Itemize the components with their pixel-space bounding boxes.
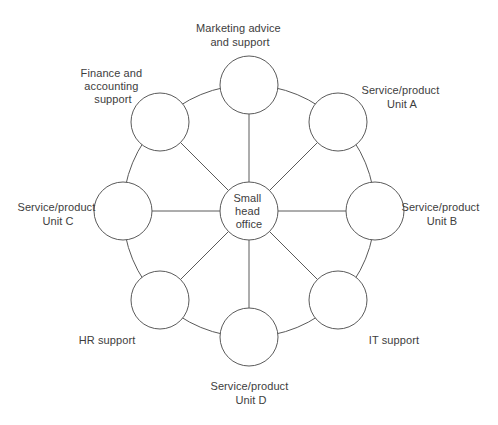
label-it-support: IT support — [369, 334, 419, 346]
label-finance-and-accounting-support: Finance and accounting support — [81, 67, 146, 105]
label-line: office — [236, 218, 263, 230]
label-line: Service/product — [17, 201, 95, 213]
label-line: HR support — [79, 334, 136, 346]
label-hr-support: HR support — [79, 334, 136, 346]
label-line: and support — [210, 36, 269, 48]
node-circle-service-product-unit-a — [309, 93, 367, 151]
label-line: Unit C — [42, 215, 73, 227]
label-line: Small — [233, 192, 261, 204]
label-line: Service/product — [361, 84, 439, 96]
node-circle-service-product-unit-b — [346, 182, 404, 240]
label-line: IT support — [369, 334, 419, 346]
label-line: head — [235, 205, 260, 217]
node-circle-finance-and-accounting-support — [131, 93, 189, 151]
label-line: Service/product — [210, 380, 288, 392]
label-line: Unit A — [387, 98, 418, 110]
label-line: Service/product — [401, 201, 479, 213]
node-circle-service-product-unit-d — [220, 308, 278, 366]
label-line: Marketing advice — [196, 22, 281, 34]
label-line: Unit B — [427, 215, 458, 227]
label-marketing-advice-and-support: Marketing advice and support — [196, 22, 284, 48]
label-line: Finance and — [81, 67, 143, 79]
label-service-product-unit-b: Service/product Unit B — [401, 201, 482, 227]
node-circle-hr-support — [131, 271, 189, 329]
label-service-product-unit-c: Service/product Unit C — [17, 201, 98, 227]
label-line: support — [94, 93, 131, 105]
label-service-product-unit-d: Service/product Unit D — [210, 380, 291, 406]
label-service-product-unit-a: Service/product Unit A — [361, 84, 442, 110]
node-circle-service-product-unit-c — [94, 182, 152, 240]
label-line: accounting — [84, 80, 138, 92]
node-circle-it-support — [309, 271, 367, 329]
label-small-head-office: Small head office — [233, 192, 264, 230]
figure-canvas: Small head office Marketing advice and s… — [0, 0, 498, 425]
label-line: Unit D — [235, 394, 266, 406]
hub-spoke-diagram: Small head office Marketing advice and s… — [0, 0, 498, 425]
node-circle-marketing-advice-and-support — [220, 56, 278, 114]
